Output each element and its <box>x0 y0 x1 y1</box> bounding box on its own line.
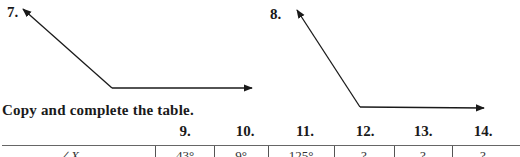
column-divider <box>334 146 335 157</box>
instruction-text: Copy and complete the table. <box>2 103 194 118</box>
column-header: 13. <box>398 124 448 139</box>
column-divider <box>155 146 156 157</box>
table-cell: 9° <box>213 149 269 157</box>
table-header-rule <box>2 145 520 146</box>
column-header: 11. <box>280 124 330 139</box>
row-label: ∠X <box>60 149 100 157</box>
column-header: 9. <box>160 124 210 139</box>
table-cell: ? <box>336 149 392 157</box>
ray-arrow-icon <box>23 9 112 88</box>
figure-8-label: 8. <box>270 7 281 22</box>
table-cell: 125° <box>273 149 329 157</box>
ray-arrow-icon <box>360 107 484 108</box>
table-cell: ? <box>455 149 511 157</box>
column-header: 12. <box>340 124 390 139</box>
table-cell: 43° <box>157 149 213 157</box>
angle-8-figure <box>297 10 484 108</box>
table-cell: ? <box>395 149 451 157</box>
angle-7-figure <box>23 9 252 88</box>
ray-arrow-icon <box>297 10 360 107</box>
column-divider <box>452 146 453 157</box>
figure-7-label: 7. <box>7 5 18 20</box>
column-header: 14. <box>458 124 508 139</box>
column-header: 10. <box>220 124 270 139</box>
